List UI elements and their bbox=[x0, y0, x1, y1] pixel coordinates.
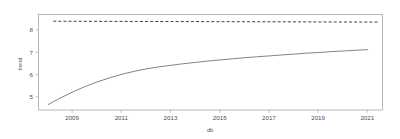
x-axis-title: db bbox=[207, 127, 213, 133]
x-tick-label-2017: 2017 bbox=[262, 114, 276, 121]
chart-figure: 8 7 6 5 trend 2009 2011 2013 2015 2017 2… bbox=[0, 0, 400, 139]
y-tick-label-5: 5 bbox=[30, 93, 34, 100]
y-tick-label-8: 8 bbox=[30, 26, 34, 33]
x-tick-label-2013: 2013 bbox=[164, 114, 178, 121]
y-tick-label-6: 6 bbox=[30, 71, 34, 78]
x-tick-label-2021: 2021 bbox=[360, 114, 374, 121]
x-tick-label-2015: 2015 bbox=[213, 114, 227, 121]
y-axis-title: trend bbox=[17, 58, 23, 71]
plot-canvas: 8 7 6 5 trend 2009 2011 2013 2015 2017 2… bbox=[0, 0, 400, 139]
x-tick-label-2019: 2019 bbox=[311, 114, 325, 121]
x-tick-label-2009: 2009 bbox=[65, 114, 79, 121]
x-tick-label-2011: 2011 bbox=[115, 114, 129, 121]
y-tick-label-7: 7 bbox=[30, 49, 34, 56]
